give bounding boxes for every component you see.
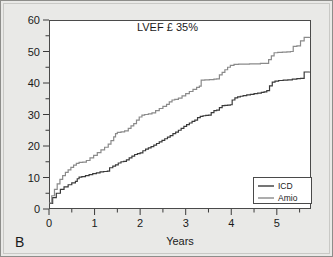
legend-label-icd: ICD xyxy=(278,181,293,191)
x-axis-tick-label: 1 xyxy=(92,217,98,229)
plot-annotation: LVEF £ 35% xyxy=(137,21,198,33)
y-axis-tick-label: 0 xyxy=(34,203,40,215)
y-axis-tick-label: 40 xyxy=(28,77,40,89)
figure-panel-b: 0102030405060012345LVEF £ 35%YearsBICDAm… xyxy=(0,0,333,257)
x-axis-title: Years xyxy=(166,235,194,247)
x-axis-tick-label: 2 xyxy=(137,217,143,229)
x-axis-tick-label: 3 xyxy=(183,217,189,229)
x-axis-tick-label: 4 xyxy=(228,217,234,229)
y-axis-tick-label: 10 xyxy=(28,172,40,184)
y-axis-tick-label: 60 xyxy=(28,14,40,26)
y-axis-tick-label: 30 xyxy=(28,109,40,121)
chart-legend[interactable]: ICDAmio xyxy=(254,178,312,204)
legend-label-amio: Amio xyxy=(278,193,298,203)
x-axis-tick-label: 0 xyxy=(46,217,52,229)
kaplan-meier-chart: 0102030405060012345LVEF £ 35%YearsBICDAm… xyxy=(1,1,333,257)
y-axis-tick-label: 50 xyxy=(28,46,40,58)
panel-label: B xyxy=(15,234,24,250)
y-axis-tick-label: 20 xyxy=(28,140,40,152)
x-axis-tick-label: 5 xyxy=(274,217,280,229)
